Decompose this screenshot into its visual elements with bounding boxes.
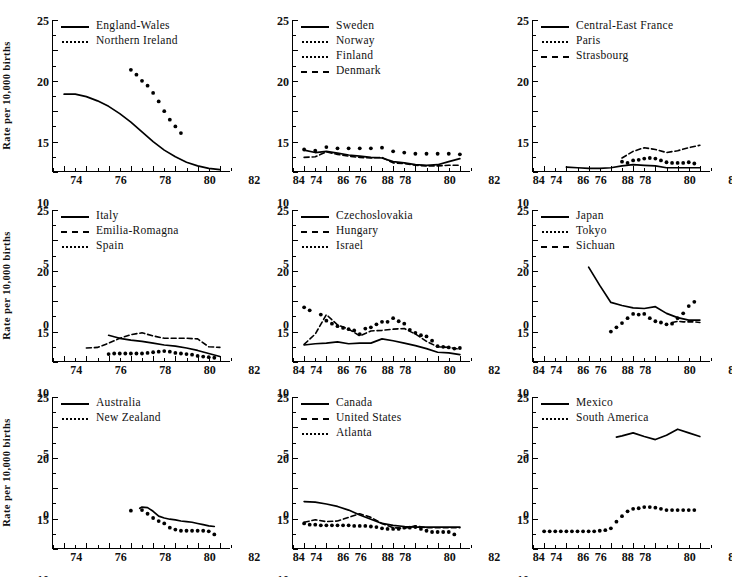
data-point (173, 528, 177, 532)
x-tick-label: 74 (70, 364, 82, 376)
data-point (107, 352, 111, 356)
panel-japan: 05101520257476788082848688JapanTokyoSich… (480, 198, 724, 390)
legend-key-solid (60, 211, 90, 221)
x-tick-label: 74 (550, 364, 562, 376)
data-point (173, 125, 177, 129)
legend-key-dashed (300, 226, 330, 236)
legend-line-solid (541, 216, 569, 218)
legend-key-dashed (60, 226, 90, 236)
data-point (570, 529, 574, 533)
data-point (162, 109, 166, 113)
data-point (447, 346, 451, 350)
data-point (140, 508, 144, 512)
data-point (201, 355, 205, 359)
x-tick-label: 80 (444, 174, 456, 186)
legend-line-solid (61, 403, 89, 405)
data-point (648, 505, 652, 509)
x-tick-minor (231, 358, 232, 361)
legend: MexicoSouth America (540, 395, 649, 425)
data-point (587, 529, 591, 533)
data-point (402, 526, 406, 530)
x-tick-minor (471, 358, 472, 361)
data-point (581, 529, 585, 533)
data-point (341, 326, 345, 330)
legend-label: Denmark (336, 65, 381, 77)
data-point (129, 68, 133, 72)
data-point (653, 319, 657, 323)
legend-label: Mexico (576, 397, 613, 409)
x-tick-label: 76 (595, 364, 607, 376)
x-tick-label: 74 (310, 551, 322, 563)
data-point (603, 528, 607, 532)
legend-key-dotted (540, 413, 570, 423)
legend-item: New Zealand (60, 410, 161, 425)
legend-label: Norway (336, 35, 375, 47)
y-axis-label-text: Rate per 10,000 births (1, 41, 12, 149)
data-point (313, 523, 317, 527)
data-point (319, 313, 323, 317)
data-point (553, 529, 557, 533)
data-point (559, 529, 563, 533)
data-point (129, 509, 133, 513)
panel-england-wales: Rate per 10,000 births051015202574767880… (0, 8, 244, 200)
legend-item: Paris (540, 33, 673, 48)
data-point (676, 316, 680, 320)
data-point (452, 533, 456, 537)
data-point (665, 322, 669, 326)
data-point (302, 522, 306, 526)
data-point (548, 529, 552, 533)
legend-key-solid (540, 21, 570, 31)
data-point (425, 335, 429, 339)
x-tick-label: 80 (444, 364, 456, 376)
x-tick-minor (471, 168, 472, 171)
data-point (319, 523, 323, 527)
x-tick-minor (231, 545, 232, 548)
y-tick-label: 20 (277, 266, 289, 278)
legend-key-solid (300, 21, 330, 31)
data-point (419, 333, 423, 337)
data-point (676, 161, 680, 165)
legend-item: Mexico (540, 395, 649, 410)
data-point (681, 311, 685, 315)
y-tick: 0 (293, 549, 298, 550)
y-tick-label: 20 (37, 76, 49, 88)
data-point (336, 324, 340, 328)
data-point (352, 524, 356, 528)
data-point (430, 530, 434, 534)
x-tick-label: 76 (355, 551, 367, 563)
legend-key-dotted (540, 36, 570, 46)
data-point (358, 524, 362, 528)
legend-item: Finland (300, 48, 381, 63)
data-point (179, 529, 183, 533)
y-tick: 0 (53, 549, 58, 550)
x-tick-label: 74 (550, 551, 562, 563)
data-point (626, 316, 630, 320)
data-point (676, 508, 680, 512)
data-point (692, 300, 696, 304)
y-tick-label: 20 (277, 76, 289, 88)
data-point (397, 527, 401, 531)
legend-label: Sweden (336, 20, 374, 32)
data-point (157, 519, 161, 523)
legend-item: Emilia-Romagna (60, 223, 179, 238)
legend: CanadaUnited StatesAtlanta (300, 395, 402, 440)
x-tick-label: 82 (728, 364, 732, 376)
data-point (386, 527, 390, 531)
data-point (653, 506, 657, 510)
legend-label: Tokyo (576, 225, 607, 237)
data-point (369, 325, 373, 329)
data-point (441, 345, 445, 349)
data-point (413, 331, 417, 335)
y-tick-label: 20 (277, 453, 289, 465)
data-point (112, 352, 116, 356)
data-point (157, 350, 161, 354)
series-line (616, 429, 699, 439)
data-point (380, 320, 384, 324)
data-point (648, 156, 652, 160)
data-point (391, 149, 395, 153)
data-point (196, 529, 200, 533)
data-point (151, 91, 155, 95)
data-point (330, 322, 334, 326)
legend-line-dotted (62, 41, 88, 43)
data-point (140, 352, 144, 356)
